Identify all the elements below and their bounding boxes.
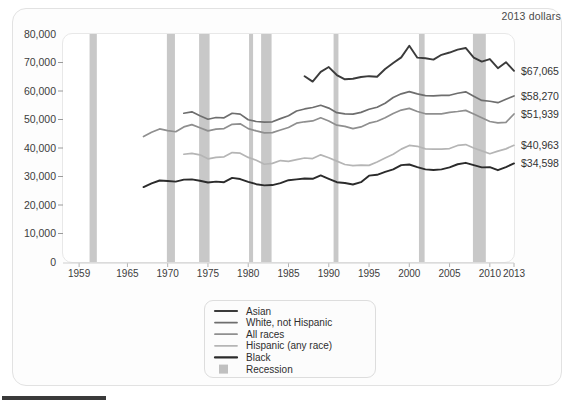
x-tick-label: 2013 — [503, 268, 526, 279]
y-tick-label: 0 — [50, 256, 56, 268]
end-label-asian: $67,065 — [521, 65, 559, 77]
recession-bands-group — [90, 34, 486, 262]
x-axis-ticks: 1959196519701975198019851990199520002005… — [63, 263, 526, 279]
legend-label: All races — [246, 329, 284, 340]
y-tick-label: 20,000 — [24, 199, 56, 211]
y-tick-label: 60,000 — [24, 85, 56, 97]
x-tick-label: 2010 — [479, 268, 502, 279]
legend-swatch-recession — [219, 365, 228, 374]
end-label-all-races: $51,939 — [521, 108, 559, 120]
series-line-white-not-hispanic — [184, 92, 514, 122]
recession-band — [334, 34, 339, 262]
end-label-hispanic-any-race: $40,963 — [521, 139, 559, 151]
x-tick-label: 2005 — [438, 268, 461, 279]
end-label-black: $34,598 — [521, 157, 559, 169]
x-tick-label: 2000 — [398, 268, 421, 279]
chart-svg: 010,00020,00030,00040,00050,00060,00070,… — [0, 0, 575, 406]
x-tick-label: 1970 — [157, 268, 180, 279]
legend-label: Black — [246, 352, 271, 363]
y-tick-label: 30,000 — [24, 170, 56, 182]
y-tick-label: 10,000 — [24, 227, 56, 239]
legend-label: White, not Hispanic — [246, 317, 332, 328]
x-tick-label: 1990 — [318, 268, 341, 279]
recession-band — [261, 34, 271, 262]
recession-band — [249, 34, 253, 262]
end-value-labels: $67,065$58,270$51,939$40,963$34,598 — [521, 65, 559, 170]
legend-label: Recession — [246, 364, 293, 375]
y-tick-label: 70,000 — [24, 56, 56, 68]
end-label-white-not-hispanic: $58,270 — [521, 90, 559, 102]
y-tick-label: 40,000 — [24, 142, 56, 154]
legend-label: Hispanic (any race) — [246, 340, 332, 351]
x-tick-label: 1980 — [237, 268, 260, 279]
x-tick-label: 1985 — [277, 268, 300, 279]
legend-entries: AsianWhite, not HispanicAll racesHispani… — [215, 306, 332, 375]
x-tick-label: 1975 — [197, 268, 220, 279]
recession-band — [90, 34, 97, 262]
x-tick-label: 1959 — [68, 268, 91, 279]
recession-band — [167, 34, 175, 262]
legend-label: Asian — [246, 306, 271, 317]
x-tick-label: 1995 — [358, 268, 381, 279]
chart-canvas: 010,00020,00030,00040,00050,00060,00070,… — [0, 0, 575, 406]
x-tick-label: 1965 — [116, 268, 139, 279]
recession-band — [199, 34, 209, 262]
y-axis-ticks: 010,00020,00030,00040,00050,00060,00070,… — [24, 28, 63, 268]
y-tick-label: 80,000 — [24, 28, 56, 40]
y-tick-label: 50,000 — [24, 113, 56, 125]
